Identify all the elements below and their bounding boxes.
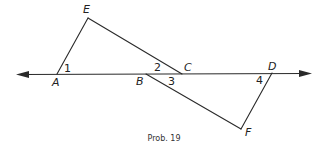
angle-label-1: 1: [64, 63, 71, 74]
angle-label-3: 3: [168, 76, 175, 87]
figure-caption: Prob. 19: [0, 134, 328, 143]
geometry-diagram: [0, 0, 328, 156]
segment-ae: [57, 18, 88, 74]
point-label-e: E: [83, 4, 90, 15]
angle-label-4: 4: [256, 75, 263, 86]
arrow-left-icon: [16, 71, 29, 78]
point-label-b: B: [136, 76, 144, 87]
segment-bf: [146, 74, 241, 129]
arrow-right-icon: [299, 70, 312, 77]
point-label-a: A: [52, 77, 60, 88]
segment-ec: [88, 18, 182, 74]
angle-label-2: 2: [154, 62, 161, 73]
point-label-c: C: [184, 62, 192, 73]
point-label-d: D: [268, 61, 276, 72]
